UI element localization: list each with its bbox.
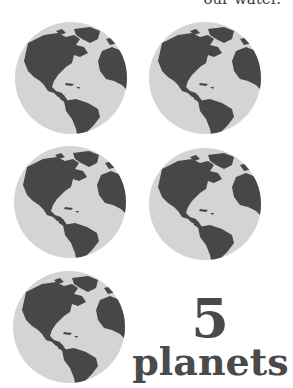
earth-globe-icon — [12, 270, 126, 384]
earth-globe-icon — [148, 147, 262, 261]
earth-globe-icon — [14, 21, 128, 135]
cropped-header-text: our water. — [0, 0, 293, 8]
planet-count-number: 5 — [150, 292, 270, 346]
earth-globe-icon — [13, 145, 127, 259]
planet-count-label: planets — [128, 340, 293, 384]
earth-globe-icon — [148, 21, 262, 135]
